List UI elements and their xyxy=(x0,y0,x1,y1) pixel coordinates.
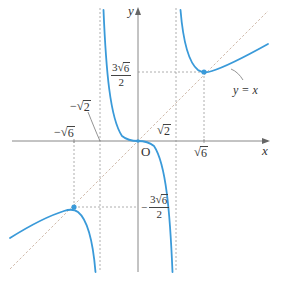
origin-point xyxy=(136,139,140,143)
label-y-max: 3√6 2 xyxy=(111,62,131,88)
origin-label: O xyxy=(141,145,150,158)
function-graph: y x O −√2 −√6 √2 √6 3√6 2 − 3√6 2 y = x xyxy=(0,0,281,291)
label-y-equals-x: y = x xyxy=(233,84,258,96)
leader-y-equals-x xyxy=(231,69,243,80)
label-neg-sqrt2: −√2 xyxy=(70,100,91,113)
label-sqrt6: √6 xyxy=(194,146,208,159)
x-axis-label: x xyxy=(262,144,268,157)
local-max-point xyxy=(71,204,76,209)
label-y-min: 3√6 2 xyxy=(149,194,169,220)
y-axis-label: y xyxy=(128,4,134,17)
curve-left-branch xyxy=(10,210,96,272)
label-sqrt2: √2 xyxy=(157,124,171,137)
label-neg-sqrt6: −√6 xyxy=(54,126,75,139)
local-min-point xyxy=(201,69,206,74)
y-axis-arrow-icon xyxy=(135,7,141,15)
curve-right-branch xyxy=(181,10,269,72)
label-y-min-sign: − xyxy=(141,202,147,213)
leader-neg-sqrt2 xyxy=(88,112,100,141)
